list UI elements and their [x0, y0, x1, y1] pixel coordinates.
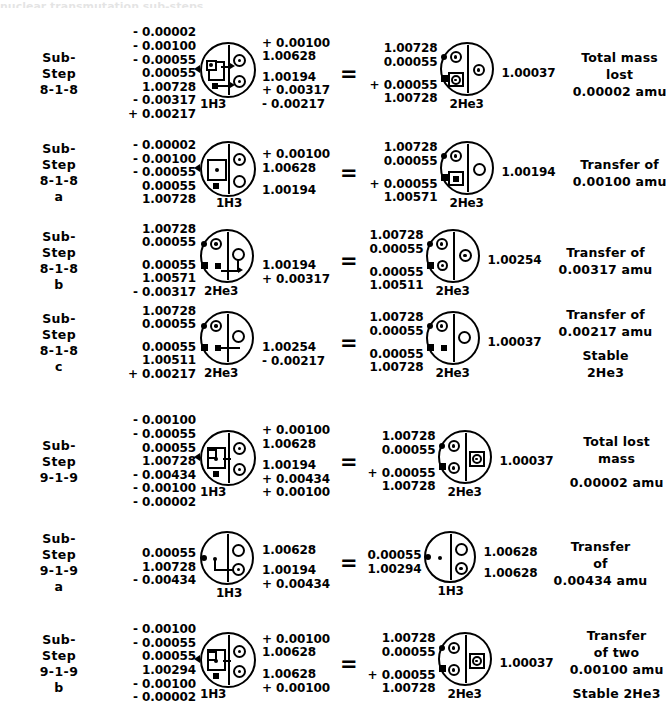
step-line: Sub-	[0, 632, 118, 648]
nucleon-proton	[448, 462, 460, 474]
result-line: 0.00002 amu	[554, 474, 670, 491]
left-values-2he3-9-1-9-b: 1.00728 0.00055 + 0.00055 1.00728	[368, 632, 436, 695]
left-values-2he3-result-8-1-8-b: 1.00728 0.00055 0.00055 1.00511	[370, 229, 424, 292]
value: 1.00728	[118, 193, 196, 207]
diagram-row-9-1-9-b: Sub- Step 9-1-9 b - 0.00100 - 0.00055 0.…	[0, 614, 613, 714]
neutrino-square-inner	[215, 263, 221, 269]
value: 1.00194	[262, 259, 334, 273]
atom-axis	[450, 534, 452, 580]
electron-dot	[201, 323, 207, 329]
nucleon-proton	[210, 320, 222, 332]
diagram-row-8-1-8-c: Sub- Step 8-1-8 c 1.00728 0.00055 0.0005…	[0, 296, 613, 390]
result-text-8-1-8: Total mass lost 0.00002 amu	[556, 49, 670, 100]
transfer-arrow-line	[223, 660, 231, 662]
step-line: 8-1-8	[0, 173, 118, 189]
atom-axis	[453, 232, 455, 280]
atom-label-2he3: 2He3	[436, 687, 494, 701]
value: + 0.00317	[262, 84, 334, 98]
value: + 0.00055	[370, 79, 438, 93]
neutrino-square	[213, 183, 219, 189]
electron-dot	[425, 554, 431, 560]
result-line: Transfer of	[556, 156, 670, 173]
value: 1.00194	[262, 459, 338, 473]
value: 1.00728	[118, 305, 196, 319]
atom-2he3: 2He3	[198, 224, 260, 298]
atom-2he3: 2He3	[198, 306, 260, 380]
step-line: Sub-	[0, 50, 118, 66]
neutrino-square	[441, 174, 448, 181]
equals-sign: =	[340, 251, 358, 272]
result-line: Transfer	[554, 627, 670, 644]
result-line: Transfer of	[542, 244, 670, 261]
value: + 0.00055	[370, 178, 438, 192]
right-values-1h3-9-1-9-b: + 0.00100 1.00628 1.00628 + 0.00100	[260, 633, 338, 695]
transfer-arrow-head	[230, 63, 235, 69]
value: - 0.00055	[118, 54, 196, 68]
spacer	[542, 340, 670, 347]
value: 1.00728	[370, 229, 424, 243]
result-line: Stable 2He3	[554, 685, 670, 702]
atom-1h3: 1H3	[198, 425, 260, 499]
nucleon-proton	[450, 150, 462, 162]
value: 1.00728	[368, 682, 436, 696]
value: 0.00055	[118, 547, 196, 561]
nucleon-neutron	[472, 454, 482, 464]
value: 1.00037	[488, 336, 542, 350]
value: + 0.00055	[368, 669, 436, 683]
right-total-8-1-8: 1.00037	[496, 67, 556, 81]
step-label-8-1-8-a: Sub- Step 8-1-8 a	[0, 141, 118, 205]
nucleon-proton	[233, 153, 246, 166]
value: 0.00055	[118, 180, 196, 194]
value: 0.00055	[118, 341, 196, 355]
value: 1.00511	[118, 354, 196, 368]
atom-label-2he3: 2He3	[436, 485, 494, 499]
right-values-1h3-9-1-9: + 0.00100 1.00628 1.00194 + 0.00434 + 0.…	[260, 424, 338, 500]
diagram-row-9-1-9-a: Sub- Step 9-1-9 a 0.00055 1.00728 - 0.00…	[0, 520, 613, 606]
step-line: 9-1-9	[0, 664, 118, 680]
value: - 0.00217	[262, 98, 334, 112]
nucleon-neutron	[451, 75, 461, 85]
atom-label-2he3: 2He3	[424, 366, 482, 380]
value: 1.00628	[262, 646, 338, 660]
step-line: b	[0, 680, 118, 696]
nucleon-empty	[233, 175, 246, 188]
nucleon-proton	[448, 440, 460, 452]
value: + 0.00217	[118, 368, 196, 382]
value: 1.00628	[262, 438, 338, 452]
value: - 0.00055	[118, 637, 196, 651]
nucleon-proton	[436, 238, 448, 250]
value: - 0.00100	[118, 414, 196, 428]
value: 1.00728	[370, 361, 424, 375]
nucleon-proton	[450, 51, 462, 63]
atom-label-2he3: 2He3	[438, 196, 496, 210]
value: - 0.00100	[118, 153, 196, 167]
value: 0.00055	[370, 243, 424, 257]
value: + 0.00100	[262, 424, 338, 438]
value: - 0.00002	[118, 26, 196, 40]
left-values-9-1-9-a: 0.00055 1.00728 - 0.00434	[118, 538, 198, 588]
value: 0.00055	[370, 266, 424, 280]
value: - 0.00002	[118, 691, 196, 705]
neutrino-square	[439, 463, 446, 470]
left-values-8-1-8-a: - 0.00002 - 0.00100 - 0.00055 0.00055 1.…	[118, 139, 198, 207]
right-values-1h3-9-1-9-a: 1.00628 1.00194 + 0.00434	[260, 535, 334, 592]
value: 1.00254	[488, 254, 542, 268]
nucleon-proton	[233, 442, 246, 455]
electron-dot	[201, 555, 207, 561]
electron-dot	[201, 241, 207, 247]
result-line: Total mass	[556, 49, 670, 66]
diagram-row-9-1-9: Sub- Step 9-1-9 - 0.00100 - 0.00055 0.00…	[0, 412, 613, 512]
nucleon-empty	[455, 543, 468, 556]
atom-1h3: 1H3	[198, 526, 260, 600]
value: + 0.00100	[262, 633, 338, 647]
atom-axis	[227, 534, 229, 582]
value: 1.00728	[118, 455, 196, 469]
electron-dot	[439, 645, 445, 651]
value: - 0.00317	[118, 94, 196, 108]
value: - 0.00434	[118, 469, 196, 483]
atom-axis	[453, 314, 455, 362]
step-line: Step	[0, 157, 118, 173]
step-line: 9-1-9	[0, 563, 118, 579]
spacer	[554, 678, 670, 685]
